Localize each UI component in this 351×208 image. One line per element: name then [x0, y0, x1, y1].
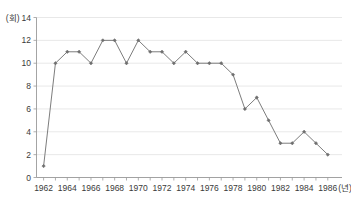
x-axis-ticks: 1962196419661968197019721974197619781980…	[34, 178, 351, 193]
gridlines	[37, 18, 343, 178]
data-point-1981	[267, 119, 270, 122]
y-tick-label-12: 12	[22, 35, 32, 45]
data-point-1968	[113, 39, 116, 42]
data-point-1976	[208, 62, 211, 65]
y-tick-label-10: 10	[22, 58, 32, 68]
data-point-1967	[101, 39, 104, 42]
x-tick-label-1980: 1980	[247, 183, 266, 193]
x-tick-label-1966: 1966	[82, 183, 101, 193]
x-tick-label-1974: 1974	[176, 183, 195, 193]
y-tick-label-8: 8	[26, 81, 31, 91]
y-tick-label-0: 0	[26, 173, 31, 183]
data-point-1982	[279, 142, 282, 145]
x-tick-label-1968: 1968	[105, 183, 124, 193]
x-tick-label-1962: 1962	[34, 183, 53, 193]
x-tick-label-1986: 1986	[318, 183, 337, 193]
y-tick-label-4: 4	[26, 127, 31, 137]
y-tick-label-2: 2	[26, 150, 31, 160]
data-point-1962	[42, 164, 45, 167]
data-series	[42, 39, 330, 168]
x-axis-unit-label: (년)	[338, 183, 351, 193]
y-axis-ticks: 02468101214(회)	[6, 13, 37, 183]
y-tick-label-14: 14	[22, 13, 32, 23]
y-tick-label-6: 6	[26, 104, 31, 114]
data-point-1969	[125, 62, 128, 65]
series-line	[44, 40, 328, 166]
x-tick-label-1970: 1970	[129, 183, 148, 193]
axes	[37, 18, 343, 178]
x-tick-label-1982: 1982	[271, 183, 290, 193]
line-chart: 02468101214(회)19621964196619681970197219…	[0, 0, 351, 208]
x-tick-label-1984: 1984	[295, 183, 314, 193]
x-tick-label-1976: 1976	[200, 183, 219, 193]
x-tick-label-1978: 1978	[224, 183, 243, 193]
x-tick-label-1964: 1964	[58, 183, 77, 193]
x-tick-label-1972: 1972	[153, 183, 172, 193]
chart-canvas: 02468101214(회)19621964196619681970197219…	[0, 0, 351, 208]
y-axis-unit-label: (회)	[6, 13, 20, 23]
